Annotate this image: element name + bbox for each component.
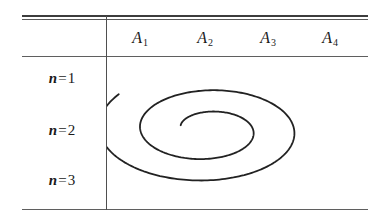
column-header-a2-base: A — [197, 29, 207, 46]
column-header-a4: A4 — [300, 28, 360, 50]
figure-root: A1 A2 A3 A4 n=1 n=2 n=3 — [0, 0, 386, 224]
column-header-a1-base: A — [132, 29, 142, 46]
column-header-a3-subscript: 3 — [271, 37, 276, 48]
row-label-n2-eq: = — [57, 122, 67, 138]
column-header-a3: A3 — [238, 28, 298, 50]
row-label-n1-var: n — [49, 70, 57, 86]
column-header-a3-base: A — [260, 29, 270, 46]
table-header-rule — [22, 56, 368, 57]
column-header-a1-subscript: 1 — [143, 37, 148, 48]
row-label-n1-num: 1 — [68, 70, 76, 86]
row-label-n2: n=2 — [22, 121, 102, 139]
row-label-n2-num: 2 — [68, 122, 76, 138]
row-label-n3-var: n — [49, 172, 57, 188]
row-label-n1-eq: = — [57, 70, 67, 86]
table-bottom-rule — [22, 209, 368, 210]
column-header-a4-subscript: 4 — [333, 37, 338, 48]
column-header-a2: A2 — [175, 28, 235, 50]
row-label-n3-num: 3 — [68, 172, 76, 188]
table-top-rule-outer — [22, 15, 368, 17]
spiral-svg — [107, 57, 368, 209]
column-header-a2-subscript: 2 — [208, 37, 213, 48]
table-top-rule-inner — [22, 19, 368, 20]
row-label-n3: n=3 — [22, 171, 102, 189]
row-label-n2-var: n — [49, 122, 57, 138]
spiral-curve — [107, 90, 294, 180]
spiral-overlay — [107, 57, 368, 209]
column-header-a1: A1 — [110, 28, 170, 50]
row-label-n3-eq: = — [57, 172, 67, 188]
column-header-a4-base: A — [322, 29, 332, 46]
table-vertical-divider — [106, 16, 107, 210]
row-label-n1: n=1 — [22, 69, 102, 87]
